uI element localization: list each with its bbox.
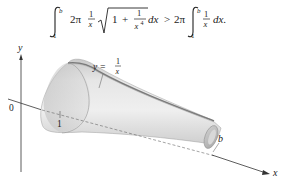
y-axis-arrow-icon bbox=[19, 54, 23, 60]
curve-label-num: 1 bbox=[116, 57, 120, 66]
sqrt-frac-den-exp: 4 bbox=[141, 20, 144, 26]
rhs-differential: dx. bbox=[213, 13, 226, 25]
rhs-frac-den: x bbox=[203, 19, 208, 29]
rhs-coefficient: 2π bbox=[174, 13, 186, 25]
relation-symbol: > bbox=[164, 13, 170, 25]
y-axis-label: y bbox=[17, 42, 23, 53]
x-axis-right bbox=[212, 155, 266, 173]
integral-inequality-equation: b 1 2π 1 x 1 + 1 x 4 dx > 2π b 1 1 x dx. bbox=[0, 4, 283, 40]
lhs-lower-limit: 1 bbox=[53, 32, 57, 40]
lhs-differential: dx bbox=[148, 13, 159, 25]
endpoint-b-label: b bbox=[218, 133, 223, 144]
rhs-lower-limit: 1 bbox=[191, 32, 195, 40]
curve-label-lhs: y = bbox=[92, 62, 106, 72]
tick-label-1: 1 bbox=[57, 119, 62, 129]
rhs-frac-num: 1 bbox=[204, 9, 208, 19]
horn-surface-figure: y x 0 1 b y = 1 x bbox=[0, 40, 283, 181]
curve-label-den: x bbox=[115, 67, 120, 76]
sqrt-frac-den: x bbox=[134, 21, 139, 31]
sqrt-one: 1 bbox=[112, 13, 118, 25]
origin-label: 0 bbox=[9, 103, 14, 113]
sqrt-frac-num: 1 bbox=[137, 8, 141, 18]
lhs-coefficient: 2π bbox=[70, 13, 82, 25]
rhs-upper-limit: b bbox=[197, 7, 201, 15]
sqrt-plus: + bbox=[122, 13, 128, 25]
x-axis-arrow-icon bbox=[262, 170, 270, 175]
x-axis-label: x bbox=[272, 167, 278, 178]
lhs-upper-limit: b bbox=[59, 7, 63, 15]
lhs-frac-num: 1 bbox=[89, 9, 93, 19]
lhs-frac-den: x bbox=[88, 19, 93, 29]
